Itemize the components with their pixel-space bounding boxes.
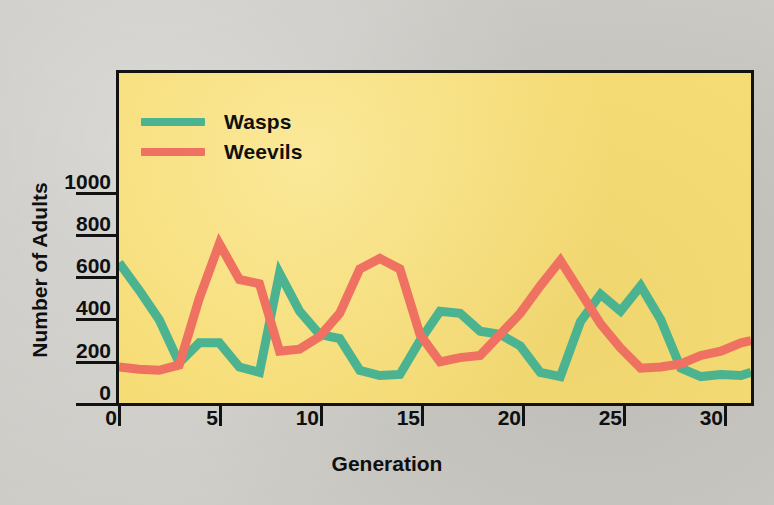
y-axis-title: Number of Adults [28, 125, 52, 415]
legend-item-weevils: Weevils [141, 137, 303, 167]
x-tick-25: 25 [623, 406, 626, 426]
y-tick-label-800: 800 [76, 212, 111, 236]
legend: Wasps Weevils [141, 107, 303, 167]
x-tick-5: 5 [219, 406, 222, 426]
x-tick-label-5: 5 [206, 406, 218, 430]
x-axis-title: Generation [0, 452, 774, 476]
x-tick-line-15 [421, 406, 424, 426]
x-tick-line-10 [320, 406, 323, 426]
x-tick-line-25 [623, 406, 626, 426]
plot-surface: Wasps Weevils [119, 73, 751, 403]
x-tick-line-5 [219, 406, 222, 426]
wasps-swatch [141, 118, 205, 126]
y-tick-label-0: 0 [99, 381, 111, 405]
x-tick-15: 15 [421, 406, 424, 426]
plot-area: Wasps Weevils [116, 70, 754, 406]
x-tick-line-20 [522, 406, 525, 426]
x-tick-20: 20 [522, 406, 525, 426]
x-tick-line-30 [724, 406, 727, 426]
x-axis: 0 5 10 15 20 25 30 [116, 406, 756, 446]
x-tick-30: 30 [724, 406, 727, 426]
legend-label-weevils: Weevils [224, 140, 303, 164]
y-tick-label-200: 200 [76, 339, 111, 363]
y-axis: Number of Adults 1000 800 600 400 200 0 [0, 70, 116, 406]
y-tick-label-600: 600 [76, 254, 111, 278]
x-tick-label-20: 20 [498, 406, 521, 430]
x-tick-label-30: 30 [700, 406, 723, 430]
legend-item-wasps: Wasps [141, 107, 303, 137]
x-tick-10: 10 [320, 406, 323, 426]
x-tick-label-15: 15 [397, 406, 420, 430]
x-tick-label-10: 10 [296, 406, 319, 430]
x-tick-label-25: 25 [599, 406, 622, 430]
x-tick-0: 0 [118, 406, 121, 426]
weevils-swatch [141, 148, 205, 156]
legend-label-wasps: Wasps [224, 110, 291, 134]
x-tick-label-0: 0 [105, 406, 117, 430]
y-tick-label-400: 400 [76, 296, 111, 320]
x-tick-line-0 [118, 406, 121, 426]
y-tick-label-1000: 1000 [64, 170, 111, 194]
figure-root: Number of Adults 1000 800 600 400 200 0 [0, 0, 774, 505]
